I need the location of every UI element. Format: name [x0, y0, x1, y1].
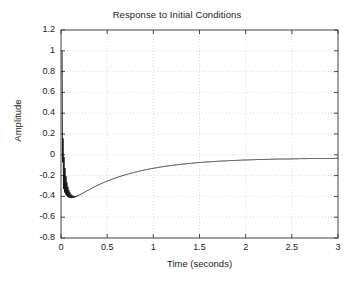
- y-tick-label: 0.8: [15, 66, 55, 76]
- x-axis-label: Time (seconds): [61, 258, 338, 269]
- y-tick-label: -0.8: [15, 232, 55, 242]
- x-tick-label: 1: [133, 242, 173, 252]
- x-tick-label: 2.5: [272, 242, 312, 252]
- y-tick-label: 0.4: [15, 107, 55, 117]
- series-line-response: [62, 51, 338, 198]
- y-tick-label: 0.6: [15, 86, 55, 96]
- chart-title: Response to Initial Conditions: [0, 9, 354, 20]
- data-series: [62, 51, 338, 198]
- x-tick-label: 1.5: [180, 242, 220, 252]
- x-tick-label: 0: [41, 242, 81, 252]
- y-tick-label: 0: [15, 149, 55, 159]
- y-tick-label: 1: [15, 45, 55, 55]
- figure-canvas: Response to Initial Conditions Time (sec…: [0, 0, 354, 283]
- x-tick-label: 3: [318, 242, 354, 252]
- grid-lines: [61, 30, 338, 238]
- y-tick-label: -0.4: [15, 190, 55, 200]
- y-tick-label: -0.6: [15, 211, 55, 221]
- x-tick-label: 0.5: [87, 242, 127, 252]
- y-tick-label: 1.2: [15, 24, 55, 34]
- y-tick-label: -0.2: [15, 170, 55, 180]
- x-tick-label: 2: [226, 242, 266, 252]
- y-tick-label: 0.2: [15, 128, 55, 138]
